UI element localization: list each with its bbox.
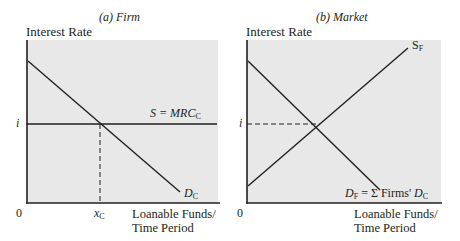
firm-plot-area	[27, 40, 218, 203]
firm-demand-label: DC	[184, 186, 198, 201]
market-supply-label: SF	[412, 38, 423, 53]
market-panel-title: (b) Market	[316, 10, 368, 25]
market-origin-label: 0	[237, 206, 243, 221]
firm-supply-label: S = MRCC	[150, 106, 201, 121]
market-demand-label: DF = Σ Firms' DC	[345, 186, 428, 201]
firm-x-axis-label: Loanable Funds/ Time Period	[132, 207, 216, 235]
market-plot-area	[247, 40, 441, 203]
firm-origin-label: 0	[16, 206, 22, 221]
market-x-axis-label: Loanable Funds/ Time Period	[354, 207, 438, 235]
firm-panel-title: (a) Firm	[99, 10, 140, 25]
market-y-axis-label: Interest Rate	[246, 24, 312, 40]
firm-quantity-label: xC	[94, 206, 105, 221]
firm-rate-label: i	[16, 116, 19, 131]
firm-y-axis-label: Interest Rate	[26, 24, 92, 40]
market-rate-label: i	[239, 116, 242, 131]
